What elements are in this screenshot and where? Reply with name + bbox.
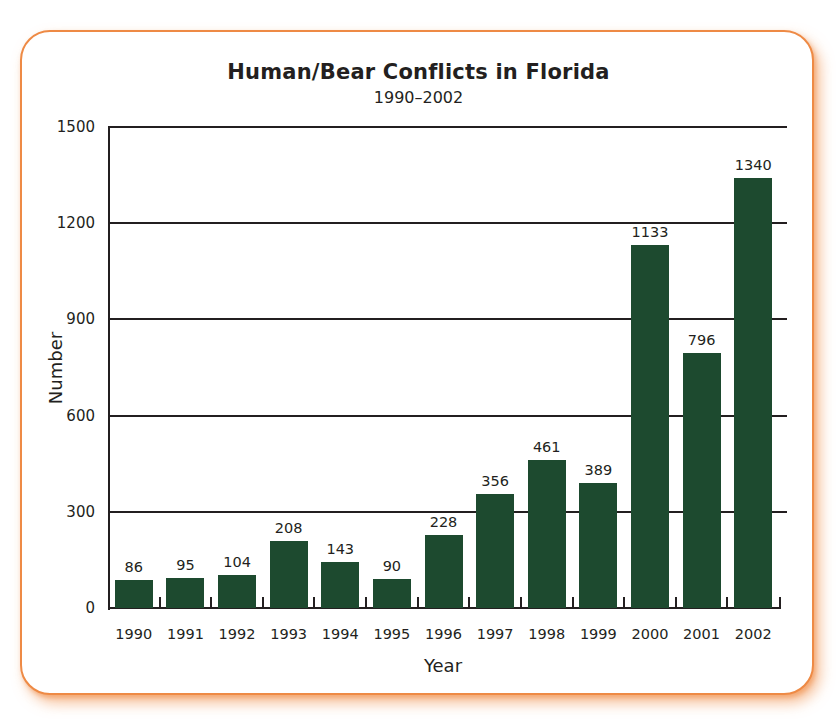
bar-2000: [631, 245, 669, 608]
bar-value-label: 90: [362, 558, 422, 574]
y-tick-label: 1200: [57, 214, 95, 232]
gridline: [108, 126, 786, 128]
bar-1999: [579, 483, 617, 608]
x-tick: [520, 597, 522, 608]
right-tick: [779, 222, 787, 224]
plot-area: [108, 127, 779, 608]
bar-1997: [476, 494, 514, 608]
y-tick-label: 300: [66, 503, 95, 521]
y-axis-line: [108, 127, 110, 610]
bar-value-label: 1133: [620, 224, 680, 240]
chart-subtitle: 1990–2002: [0, 88, 837, 107]
bar-2001: [683, 353, 721, 608]
bar-1990: [115, 580, 153, 608]
bar-1992: [218, 575, 256, 608]
bar-1995: [373, 579, 411, 608]
y-tick-label: 600: [66, 407, 95, 425]
x-tick: [623, 597, 625, 608]
bar-value-label: 461: [517, 439, 577, 455]
bar-value-label: 356: [465, 473, 525, 489]
bar-value-label: 208: [259, 520, 319, 536]
right-tick: [779, 511, 787, 513]
right-tick: [779, 415, 787, 417]
y-axis-title: Number: [45, 332, 66, 404]
bar-value-label: 1340: [723, 157, 783, 173]
bar-1994: [321, 562, 359, 608]
bar-1991: [166, 578, 204, 608]
x-tick: [417, 597, 419, 608]
bar-1998: [528, 460, 566, 608]
right-tick: [779, 318, 787, 320]
gridline: [108, 222, 786, 224]
bar-value-label: 796: [672, 332, 732, 348]
bar-2002: [734, 178, 772, 608]
bar-1993: [270, 541, 308, 608]
x-tick: [572, 597, 574, 608]
bar-value-label: 228: [414, 514, 474, 530]
x-tick: [468, 597, 470, 608]
y-tick-label: 0: [85, 599, 95, 617]
chart-title: Human/Bear Conflicts in Florida: [0, 60, 837, 84]
gridline: [108, 318, 786, 320]
x-tick: [313, 597, 315, 608]
bar-1996: [425, 535, 463, 608]
y-tick-label: 900: [66, 310, 95, 328]
x-tick: [210, 597, 212, 608]
x-tick: [159, 597, 161, 608]
x-tick: [365, 597, 367, 608]
bar-value-label: 104: [207, 554, 267, 570]
x-tick-label: 2002: [723, 626, 783, 642]
x-axis-title: Year: [413, 655, 473, 676]
bar-value-label: 143: [310, 541, 370, 557]
y-tick-label: 1500: [57, 118, 95, 136]
x-tick: [262, 597, 264, 608]
bar-value-label: 389: [568, 462, 628, 478]
x-tick: [675, 597, 677, 608]
x-tick: [726, 597, 728, 608]
x-tick: [779, 597, 781, 608]
right-tick: [779, 126, 787, 128]
